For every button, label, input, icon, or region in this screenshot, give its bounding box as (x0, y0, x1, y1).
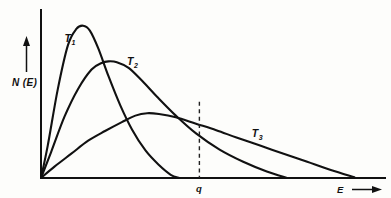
energy-distribution-chart: N (E) E q T 1 T 2 T 3 (0, 0, 391, 198)
x-axis-arrow-icon (352, 186, 382, 193)
curve-label-t2: T 2 (127, 55, 138, 69)
curve-t2 (41, 61, 287, 178)
y-axis-arrow-icon (23, 36, 30, 72)
curve-label-t3: T 3 (252, 127, 263, 141)
curve-label-t1-subscript: 1 (72, 39, 76, 46)
curve-label-t3-subscript: 3 (259, 134, 263, 141)
figure-container: N (E) E q T 1 T 2 T 3 (0, 0, 391, 198)
curve-t1 (41, 26, 179, 178)
curve-t3 (41, 113, 354, 178)
x-axis-label: E (337, 184, 344, 195)
q-tick-label: q (196, 183, 202, 194)
y-axis-label: N (E) (12, 77, 38, 88)
curve-label-t2-subscript: 2 (133, 62, 138, 69)
